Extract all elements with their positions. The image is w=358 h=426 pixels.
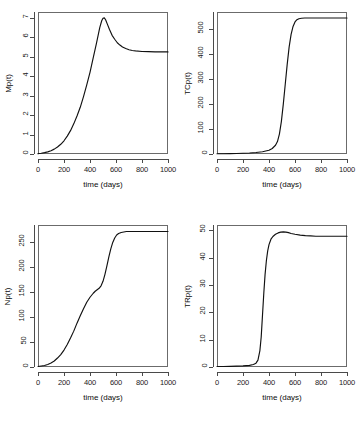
x-tick (90, 159, 91, 163)
y-tick (209, 230, 213, 231)
x-tick (142, 372, 143, 376)
x-tick-label: 0 (36, 165, 40, 174)
x-tick-label: 400 (84, 165, 96, 174)
x-tick (347, 372, 348, 376)
x-tick-label: 1000 (339, 378, 355, 387)
x-tick-label: 600 (289, 165, 301, 174)
x-tick (269, 372, 270, 376)
x-tick (243, 159, 244, 163)
y-axis-label-text-trp: TRp(t) (183, 285, 192, 308)
y-tick (30, 37, 34, 38)
x-axis-mp (38, 159, 168, 160)
curve-trp (217, 225, 347, 367)
x-tick-label: 200 (58, 165, 70, 174)
y-axis-label-trp: TRp(t) (181, 225, 193, 367)
x-tick (321, 159, 322, 163)
y-tick (209, 367, 213, 368)
x-tick-label: 600 (289, 378, 301, 387)
curve-tcp (217, 12, 347, 154)
y-axis-label-text-np: Np(t) (4, 287, 13, 305)
x-tick-label: 200 (237, 165, 249, 174)
x-tick-label: 600 (110, 165, 122, 174)
x-tick-label: 800 (136, 378, 148, 387)
y-tick (30, 292, 34, 293)
y-axis-label-text-tcp: TCp(t) (183, 72, 192, 95)
x-tick-label: 600 (110, 378, 122, 387)
x-tick-label: 0 (215, 378, 219, 387)
y-tick (30, 367, 34, 368)
y-tick (30, 135, 34, 136)
x-tick (168, 159, 169, 163)
x-tick-label: 800 (136, 165, 148, 174)
x-tick-label: 800 (315, 378, 327, 387)
x-tick (142, 159, 143, 163)
y-tick (209, 154, 213, 155)
x-tick-label: 1000 (160, 378, 176, 387)
y-axis-label-tcp: TCp(t) (181, 12, 193, 154)
y-tick (30, 57, 34, 58)
y-tick (209, 312, 213, 313)
x-axis-label-np: time (days) (38, 393, 168, 402)
x-tick-label: 200 (58, 378, 70, 387)
y-tick (30, 76, 34, 77)
x-tick (217, 159, 218, 163)
x-tick-label: 1000 (160, 165, 176, 174)
curve-mp (38, 12, 168, 154)
x-tick-label: 1000 (339, 165, 355, 174)
x-axis-tcp (217, 159, 347, 160)
x-tick (295, 372, 296, 376)
x-tick (64, 372, 65, 376)
x-tick (347, 159, 348, 163)
y-tick (209, 129, 213, 130)
panel-tcp: 020040060080010000100200300400500 time (… (179, 0, 358, 213)
x-tick (90, 372, 91, 376)
y-tick (30, 317, 34, 318)
x-tick-label: 400 (84, 378, 96, 387)
x-axis-label-trp: time (days) (217, 393, 347, 402)
x-tick (295, 159, 296, 163)
x-tick (116, 372, 117, 376)
x-tick (321, 372, 322, 376)
x-tick-label: 400 (263, 378, 275, 387)
x-tick (38, 159, 39, 163)
x-tick (168, 372, 169, 376)
y-tick (209, 54, 213, 55)
y-axis-trp (213, 225, 214, 367)
panel-np: 02004006008001000050100150200250 time (d… (0, 213, 179, 426)
x-axis-label-tcp: time (days) (217, 180, 347, 189)
x-tick-label: 0 (215, 165, 219, 174)
y-tick (30, 267, 34, 268)
x-tick-label: 0 (36, 378, 40, 387)
y-tick (30, 96, 34, 97)
x-tick-label: 200 (237, 378, 249, 387)
x-tick (243, 372, 244, 376)
y-tick (209, 79, 213, 80)
y-axis-mp (34, 12, 35, 154)
y-tick (30, 18, 34, 19)
y-axis-label-text-mp: Mp(t) (4, 74, 13, 93)
x-tick-label: 800 (315, 165, 327, 174)
x-tick-label: 400 (263, 165, 275, 174)
figure-panel-grid: 0200400600800100001234567 time (days) Mp… (0, 0, 358, 426)
y-tick (30, 342, 34, 343)
y-axis-label-np: Np(t) (2, 225, 14, 367)
y-tick (209, 285, 213, 286)
y-tick (30, 115, 34, 116)
x-tick (217, 372, 218, 376)
y-tick (209, 258, 213, 259)
y-tick (209, 29, 213, 30)
x-tick (116, 159, 117, 163)
y-tick (209, 340, 213, 341)
y-axis-label-mp: Mp(t) (2, 12, 14, 154)
y-axis-np (34, 225, 35, 367)
y-axis-tcp (213, 12, 214, 154)
x-tick (38, 372, 39, 376)
panel-trp: 0200400600800100001020304050 time (days)… (179, 213, 358, 426)
x-axis-np (38, 372, 168, 373)
x-axis-trp (217, 372, 347, 373)
y-tick (209, 104, 213, 105)
x-tick (64, 159, 65, 163)
curve-np (38, 225, 168, 367)
x-axis-label-mp: time (days) (38, 180, 168, 189)
y-tick (30, 154, 34, 155)
